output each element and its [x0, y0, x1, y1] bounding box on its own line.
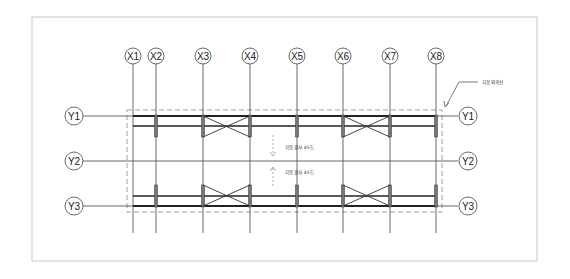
structural-plan-drawing: 지붕 경사 45도 지붕 경사 45도 지붕 외곽선 X1 X2 X3 X4 X… — [0, 0, 570, 279]
svg-text:X6: X6 — [337, 51, 350, 62]
y-bubble-y1-left: Y1 — [65, 107, 83, 125]
y-bubble-y2-left: Y2 — [65, 152, 83, 170]
svg-text:X8: X8 — [430, 51, 443, 62]
roof-outline-label: 지붕 외곽선 — [482, 79, 503, 86]
svg-text:Y2: Y2 — [68, 156, 81, 167]
x-bubble-x6: X6 — [335, 48, 351, 64]
svg-text:Y1: Y1 — [68, 111, 81, 122]
svg-text:Y1: Y1 — [462, 111, 475, 122]
svg-text:X5: X5 — [291, 51, 304, 62]
x-bubble-x1: X1 — [125, 48, 141, 64]
y-axis-bubbles-right: Y1 Y2 Y3 — [459, 107, 477, 215]
x-bubble-x5: X5 — [289, 48, 305, 64]
svg-text:X7: X7 — [384, 51, 397, 62]
y-bubble-y3-left: Y3 — [65, 197, 83, 215]
svg-text:X3: X3 — [197, 51, 210, 62]
x-bubble-x3: X3 — [195, 48, 211, 64]
x-bubble-x7: X7 — [382, 48, 398, 64]
x-bubble-x4: X4 — [242, 48, 258, 64]
y-axis-bubbles-left: Y1 Y2 Y3 — [65, 107, 83, 215]
slope-label-top: 지붕 경사 45도 — [285, 144, 314, 151]
drawing-frame — [32, 17, 537, 261]
y-bubble-y3-right: Y3 — [459, 197, 477, 215]
x-bubble-x8: X8 — [428, 48, 444, 64]
svg-text:X1: X1 — [127, 51, 140, 62]
svg-text:Y3: Y3 — [68, 201, 81, 212]
roof-outline-leader — [444, 82, 478, 107]
y-grid-lines — [83, 116, 458, 206]
svg-text:Y2: Y2 — [462, 156, 475, 167]
slope-arrows — [270, 135, 276, 188]
svg-text:X4: X4 — [244, 51, 257, 62]
svg-text:Y3: Y3 — [462, 201, 475, 212]
svg-text:X2: X2 — [150, 51, 163, 62]
x-axis-bubbles: X1 X2 X3 X4 X5 X6 X7 X8 — [125, 48, 444, 64]
slope-label-bottom: 지붕 경사 45도 — [285, 169, 314, 176]
y-bubble-y2-right: Y2 — [459, 152, 477, 170]
x-bubble-x2: X2 — [148, 48, 164, 64]
y-bubble-y1-right: Y1 — [459, 107, 477, 125]
